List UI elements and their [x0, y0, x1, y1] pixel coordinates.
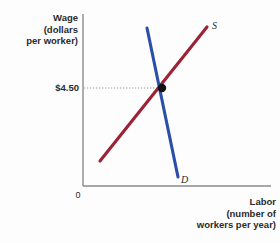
supply-demand-chart: Wage (dollars per worker) Labor (number … [0, 0, 280, 243]
x-axis-label: Labor (number of workers per year) [150, 196, 276, 231]
y-axis-tick-label-equilibrium-wage: $4.50 [36, 82, 79, 93]
demand-curve [147, 28, 178, 177]
supply-curve-label: S [212, 20, 217, 31]
equilibrium-point-dot [158, 84, 166, 92]
supply-curve [100, 27, 207, 161]
demand-curve-label: D [181, 174, 188, 185]
y-axis-label: Wage (dollars per worker) [2, 12, 78, 47]
origin-label: 0 [72, 190, 84, 200]
